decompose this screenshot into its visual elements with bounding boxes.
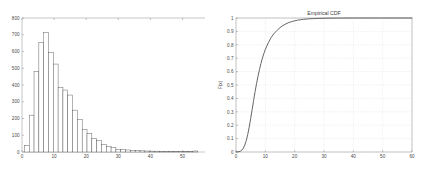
histogram-bar xyxy=(63,90,68,152)
histogram-bar xyxy=(87,134,92,152)
histogram-bar xyxy=(29,115,34,152)
cdf-ytick-label: 0.4 xyxy=(227,96,234,101)
histogram-bar xyxy=(53,64,58,152)
histogram-bar xyxy=(150,151,155,152)
histogram-bar xyxy=(140,151,145,152)
cdf-ytick-label: 0.5 xyxy=(227,83,234,88)
histogram-xtick-label: 40 xyxy=(148,154,154,159)
cdf-title: Empirical CDF xyxy=(307,10,340,16)
histogram-bar xyxy=(101,144,106,152)
histogram-xtick-label: 20 xyxy=(84,154,90,159)
cdf-ytick-label: 0.6 xyxy=(227,69,234,74)
cdf-xtick-label: 60 xyxy=(409,154,415,159)
histogram-bar xyxy=(135,151,140,152)
histogram-bar xyxy=(174,151,179,152)
histogram-bar xyxy=(116,149,121,152)
histogram-bar xyxy=(34,72,39,152)
histogram-bar xyxy=(48,52,53,152)
histogram-bar xyxy=(111,147,116,152)
histogram-bar xyxy=(97,140,102,152)
histogram-bar xyxy=(130,150,135,152)
histogram-bar xyxy=(106,147,111,152)
cdf-ytick-label: 0.1 xyxy=(227,136,234,141)
histogram-ytick-label: 400 xyxy=(12,83,20,88)
cdf-xtick-label: 30 xyxy=(321,154,327,159)
histogram-ytick-label: 800 xyxy=(12,16,20,21)
histogram-bar xyxy=(39,42,44,152)
cdf-xtick-label: 40 xyxy=(351,154,357,159)
histogram-bar xyxy=(193,151,198,152)
histogram-xtick-label: 10 xyxy=(52,154,58,159)
cdf-ytick-label: 0.3 xyxy=(227,110,234,115)
histogram-bar xyxy=(82,129,87,152)
cdf-ytick-label: 1 xyxy=(231,16,234,21)
histogram-plot: 010020030040050060070080001020304050 xyxy=(0,0,210,175)
cdf-ytick-label: 0.7 xyxy=(227,56,234,61)
cdf-plot: 00.10.20.30.40.50.60.70.80.9101020304050… xyxy=(210,0,421,175)
histogram-bar xyxy=(126,150,131,152)
histogram-ytick-label: 300 xyxy=(12,99,20,104)
histogram-xtick-label: 50 xyxy=(180,154,186,159)
histogram-bar xyxy=(169,151,174,152)
cdf-xtick-label: 0 xyxy=(235,154,238,159)
histogram-ytick-label: 100 xyxy=(12,133,20,138)
cdf-xtick-label: 20 xyxy=(292,154,298,159)
cdf-ytick-label: 0.8 xyxy=(227,43,234,48)
histogram-bar xyxy=(68,95,73,152)
histogram-ytick-label: 0 xyxy=(17,150,20,155)
histogram-ytick-label: 700 xyxy=(12,32,20,37)
histogram-bar xyxy=(154,151,159,152)
cdf-xtick-label: 10 xyxy=(263,154,269,159)
histogram-xtick-label: 30 xyxy=(116,154,122,159)
histogram-xtick-label: 0 xyxy=(21,154,24,159)
histogram-ytick-label: 200 xyxy=(12,116,20,121)
cdf-ytick-label: 0 xyxy=(231,150,234,155)
cdf-xtick-label: 50 xyxy=(380,154,386,159)
histogram-bar xyxy=(121,150,126,152)
cdf-ytick-label: 0.9 xyxy=(227,29,234,34)
histogram-bar xyxy=(159,151,164,152)
histogram-ytick-label: 600 xyxy=(12,49,20,54)
histogram-bar xyxy=(44,32,49,152)
cdf-ytick-label: 0.2 xyxy=(227,123,234,128)
histogram-bar xyxy=(58,88,63,152)
histogram-bar xyxy=(179,151,184,152)
cdf-panel: 00.10.20.30.40.50.60.70.80.9101020304050… xyxy=(210,0,421,175)
histogram-bar xyxy=(73,110,78,152)
histogram-bar xyxy=(145,151,150,152)
histogram-bar xyxy=(164,151,169,152)
histogram-bar xyxy=(92,139,97,152)
histogram-panel: 010020030040050060070080001020304050 xyxy=(0,0,210,175)
histogram-ytick-label: 500 xyxy=(12,66,20,71)
histogram-bar xyxy=(77,119,82,152)
cdf-ylabel: F(x) xyxy=(218,80,223,89)
histogram-bar xyxy=(24,145,29,152)
figure-canvas: 010020030040050060070080001020304050 00.… xyxy=(0,0,421,175)
